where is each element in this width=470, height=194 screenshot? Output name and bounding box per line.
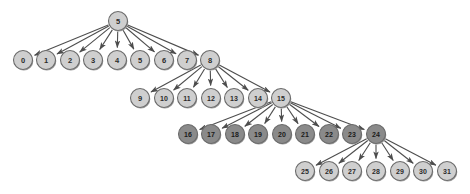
graph-node[interactable]: 10 bbox=[155, 89, 175, 109]
graph-node[interactable]: 2 bbox=[61, 51, 81, 71]
graph-edge bbox=[100, 30, 113, 50]
graph-node[interactable]: 1 bbox=[37, 51, 57, 71]
node-circle[interactable] bbox=[438, 162, 457, 181]
node-circle[interactable] bbox=[108, 51, 127, 70]
graph-node[interactable]: 15 bbox=[272, 89, 292, 109]
graph-node[interactable]: 0 bbox=[14, 51, 34, 71]
node-circle[interactable] bbox=[343, 125, 362, 144]
graph-node[interactable]: 17 bbox=[202, 125, 222, 145]
node-circle[interactable] bbox=[179, 125, 198, 144]
node-circle[interactable] bbox=[109, 12, 128, 31]
graph-node[interactable]: 9 bbox=[131, 89, 151, 109]
node-circle[interactable] bbox=[178, 89, 197, 108]
node-circle[interactable] bbox=[131, 51, 150, 70]
node-circle[interactable] bbox=[155, 51, 174, 70]
graph-node[interactable]: 29 bbox=[391, 162, 411, 182]
tree-graph-svg: 5012345678910111213141516171819202122232… bbox=[0, 0, 470, 194]
node-circle[interactable] bbox=[202, 125, 221, 144]
node-circle[interactable] bbox=[391, 162, 410, 181]
node-circle[interactable] bbox=[296, 162, 315, 181]
node-circle[interactable] bbox=[272, 89, 291, 108]
graph-node[interactable]: 6 bbox=[155, 51, 175, 71]
graph-node[interactable]: 11 bbox=[178, 89, 198, 109]
graph-node[interactable]: 23 bbox=[343, 125, 363, 145]
graph-node[interactable]: 3 bbox=[84, 51, 104, 71]
node-circle[interactable] bbox=[225, 89, 244, 108]
node-circle[interactable] bbox=[367, 125, 386, 144]
graph-node[interactable]: 7 bbox=[178, 51, 198, 71]
node-circle[interactable] bbox=[296, 125, 315, 144]
graph-edge bbox=[382, 143, 393, 161]
graph-node[interactable]: 25 bbox=[296, 162, 316, 182]
node-circle[interactable] bbox=[61, 51, 80, 70]
node-circle[interactable] bbox=[273, 125, 292, 144]
graph-node[interactable]: 19 bbox=[249, 125, 269, 145]
node-circle[interactable] bbox=[37, 51, 56, 70]
diagram-canvas: 5012345678910111213141516171819202122232… bbox=[0, 0, 470, 194]
node-circle[interactable] bbox=[343, 162, 362, 181]
graph-node[interactable]: 21 bbox=[296, 125, 316, 145]
node-circle[interactable] bbox=[367, 162, 386, 181]
graph-node[interactable]: 5 bbox=[109, 12, 129, 32]
graph-node[interactable]: 30 bbox=[414, 162, 434, 182]
node-circle[interactable] bbox=[84, 51, 103, 70]
graph-node[interactable]: 20 bbox=[273, 125, 293, 145]
node-circle[interactable] bbox=[178, 51, 197, 70]
graph-node[interactable]: 13 bbox=[225, 89, 245, 109]
graph-node[interactable]: 5 bbox=[131, 51, 151, 71]
graph-node[interactable]: 22 bbox=[320, 125, 340, 145]
node-circle[interactable] bbox=[202, 89, 221, 108]
graph-node[interactable]: 27 bbox=[343, 162, 363, 182]
graph-node[interactable]: 8 bbox=[201, 51, 221, 71]
graph-edge bbox=[359, 143, 370, 161]
node-circle[interactable] bbox=[249, 125, 268, 144]
node-circle[interactable] bbox=[249, 89, 268, 108]
graph-node[interactable]: 18 bbox=[226, 125, 246, 145]
graph-edge bbox=[384, 140, 413, 163]
graph-node[interactable]: 4 bbox=[108, 51, 128, 71]
graph-node[interactable]: 16 bbox=[179, 125, 199, 145]
node-circle[interactable] bbox=[14, 51, 33, 70]
graph-node[interactable]: 12 bbox=[202, 89, 222, 109]
node-circle[interactable] bbox=[414, 162, 433, 181]
graph-node[interactable]: 31 bbox=[438, 162, 458, 182]
node-circle[interactable] bbox=[201, 51, 220, 70]
node-circle[interactable] bbox=[131, 89, 150, 108]
node-circle[interactable] bbox=[155, 89, 174, 108]
node-circle[interactable] bbox=[320, 125, 339, 144]
graph-node[interactable]: 14 bbox=[249, 89, 269, 109]
graph-node[interactable]: 26 bbox=[320, 162, 340, 182]
graph-node[interactable]: 28 bbox=[367, 162, 387, 182]
graph-edge bbox=[126, 28, 154, 52]
node-circle[interactable] bbox=[226, 125, 245, 144]
graph-node[interactable]: 24 bbox=[367, 125, 387, 145]
node-circle[interactable] bbox=[320, 162, 339, 181]
